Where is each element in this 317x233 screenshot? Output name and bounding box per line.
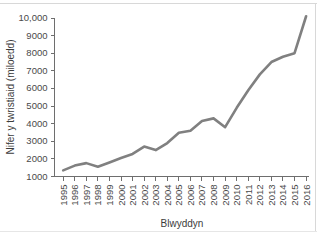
x-axis-tick-label: 2013 [266, 185, 277, 206]
y-axis-tick-label: 5000 [26, 100, 47, 111]
x-axis-tick-label: 2015 [289, 185, 300, 206]
x-axis-tick-label: 2006 [185, 185, 196, 206]
y-axis-tick-label: 6000 [26, 82, 47, 93]
x-axis-tick-label: 1995 [58, 185, 69, 206]
y-axis-tick-label: 1000 [26, 171, 47, 182]
x-axis-tick-label: 2010 [231, 185, 242, 206]
x-axis-tick-label: 2001 [127, 185, 138, 206]
y-axis-tick-label: 8000 [26, 47, 47, 58]
x-axis-tick-label: 2005 [173, 185, 184, 206]
x-axis-tick-label: 1996 [69, 185, 80, 206]
y-axis-tick-label: 9000 [26, 30, 47, 41]
x-axis-tick-label: 2008 [208, 185, 219, 206]
y-axis-tick-label: 10,000 [18, 12, 47, 23]
x-axis: 1995199619971998199920002001200220032004… [55, 177, 312, 206]
x-axis-tick-label: 2012 [254, 185, 265, 206]
line-chart-plot: 10002000300040005000600070008000900010,0… [0, 0, 317, 233]
x-axis-tick-labels: 1995199619971998199920002001200220032004… [58, 185, 312, 206]
x-axis-tick-label: 2009 [220, 185, 231, 206]
y-axis-tick-label: 7000 [26, 65, 47, 76]
y-axis-tick-label: 3000 [26, 135, 47, 146]
x-axis-tick-label: 2003 [150, 185, 161, 206]
chart-figure: 10002000300040005000600070008000900010,0… [0, 0, 317, 233]
x-axis-title: Blwyddyn [161, 218, 204, 229]
x-axis-ticks [63, 177, 306, 181]
y-axis-tick-labels: 10002000300040005000600070008000900010,0… [18, 12, 47, 182]
y-axis-tick-label: 4000 [26, 118, 47, 129]
x-axis-tick-label: 2014 [277, 185, 288, 206]
x-axis-tick-label: 2016 [301, 185, 312, 206]
x-axis-tick-label: 1998 [92, 185, 103, 206]
y-axis: 10002000300040005000600070008000900010,0… [18, 12, 54, 182]
x-axis-tick-label: 2011 [243, 185, 254, 205]
x-axis-tick-label: 2004 [162, 185, 173, 206]
tourists-line-series [63, 16, 306, 170]
x-axis-tick-label: 2000 [116, 185, 127, 206]
y-axis-ticks [51, 18, 55, 177]
y-axis-title: Nifer y twristiaid (miloedd) [5, 39, 16, 154]
x-axis-tick-label: 1997 [81, 185, 92, 206]
x-axis-tick-label: 2007 [196, 185, 207, 206]
x-axis-tick-label: 1999 [104, 185, 115, 206]
y-axis-tick-label: 2000 [26, 153, 47, 164]
x-axis-tick-label: 2002 [139, 185, 150, 206]
